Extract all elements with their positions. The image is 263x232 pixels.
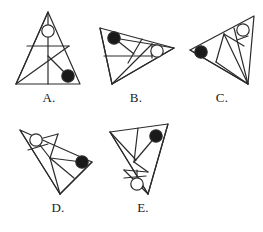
figure-a-open-circle-top	[42, 25, 54, 37]
figure-a-cell: A.	[10, 6, 88, 110]
figure-c-drawing	[182, 6, 262, 90]
figure-set: A.B.C.D.E.	[0, 0, 263, 232]
figure-a-label: A.	[10, 90, 88, 106]
figure-e-open-circle-lower-mid	[131, 178, 143, 190]
figure-d-cell: D.	[14, 114, 102, 220]
figure-e-line-top-edge-vertical-chord	[134, 128, 138, 162]
figure-a-filled-circle-bottom-right	[62, 70, 74, 82]
figure-d-label: D.	[14, 200, 102, 216]
figure-a-drawing	[10, 6, 88, 90]
figure-e-line-zigzag-lower	[124, 170, 148, 172]
figure-d-open-circle-upper-left	[30, 134, 42, 146]
figure-e-line-left-vertex-to-center	[110, 132, 136, 160]
figure-c-cell: C.	[182, 6, 262, 110]
figure-e-drawing	[104, 114, 182, 200]
figure-d-line-bottom-edge-to-right-vertex	[60, 162, 92, 194]
figure-c-filled-circle-left-vertex	[195, 46, 207, 58]
figure-b-filled-circle-upper-left	[108, 32, 120, 44]
figure-d-line-center-to-bottom-vertex	[50, 158, 60, 194]
figure-d-drawing	[14, 114, 102, 200]
figure-c-label: C.	[182, 90, 262, 106]
figure-e-label: E.	[104, 200, 182, 216]
figure-c-open-circle-upper-right	[237, 24, 249, 36]
figure-b-label: B.	[94, 90, 178, 106]
figure-e-filled-circle-top-right	[150, 130, 162, 142]
figure-b-cell: B.	[94, 6, 178, 110]
figure-b-open-circle-right	[151, 45, 163, 57]
figure-e-cell: E.	[104, 114, 182, 220]
figure-c-line-chord-cross-left	[216, 34, 224, 62]
figure-b-drawing	[94, 6, 178, 90]
figure-d-filled-circle-right-vertex	[76, 156, 88, 168]
